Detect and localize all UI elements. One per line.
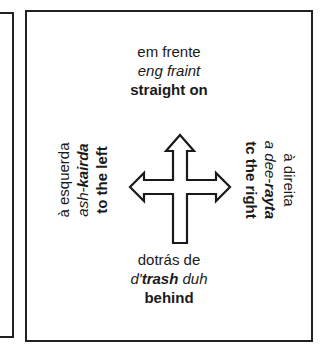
forward-pronunciation: eng fraint [27,61,311,80]
direction-behind: dotrás de d'trash duh behind [27,250,311,307]
behind-pronunciation-suffix: duh [178,270,207,287]
right-pronunciation-stress: rayta [262,183,279,219]
behind-portuguese: dotrás de [27,250,311,269]
forward-portuguese: em frente [27,42,311,61]
directions-panel: em frente eng fraint straight on à esque… [25,10,313,342]
adjacent-panel-frame [0,12,14,338]
left-pronunciation-stress: kairda [74,143,91,187]
behind-pronunciation-prefix: d' [130,270,141,287]
forward-english: straight on [27,80,311,99]
right-english: tc the right [242,100,261,260]
direction-left: à esquerda ash-kairda to the left [54,100,111,260]
left-pronunciation-prefix: ash- [74,188,91,217]
direction-forward: em frente eng fraint straight on [27,42,311,99]
right-portuguese: à direita [280,100,299,260]
behind-pronunciation-stress: trash [142,270,179,287]
right-pronunciation-prefix: a dee- [262,141,279,184]
right-pronunciation: a dee-rayta [261,100,280,260]
four-way-arrow-icon [128,133,232,245]
direction-right: à direita a dee-rayta tc the right [242,100,299,260]
left-english: to the left [92,100,111,260]
left-pronunciation: ash-kairda [73,100,92,260]
behind-english: behind [27,288,311,307]
behind-pronunciation: d'trash duh [27,269,311,288]
left-portuguese: à esquerda [54,100,73,260]
